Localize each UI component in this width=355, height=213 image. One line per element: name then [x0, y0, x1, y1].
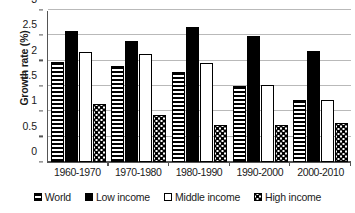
bar [65, 31, 78, 162]
legend-swatch-icon [164, 193, 172, 201]
x-axis-tick-labels: 1960-19701970-19801980-19901990-20002000… [47, 166, 351, 178]
y-axis-tick-labels: 00.511.522.53 [0, 11, 43, 163]
bar-groups [48, 11, 351, 162]
bar [125, 41, 138, 162]
bar [111, 66, 124, 162]
y-axis-tick-label: 1 [31, 94, 37, 106]
legend-label: High income [265, 191, 321, 203]
legend-label: World [45, 191, 71, 203]
y-axis-tick-label: 0.5 [22, 120, 37, 132]
legend-item[interactable]: High income [254, 191, 321, 203]
legend-swatch-icon [34, 193, 42, 201]
x-axis-tick-label: 1970-1980 [108, 166, 169, 178]
bar-group [230, 11, 291, 162]
bar-group [290, 11, 351, 162]
y-axis-tick-mark [39, 60, 43, 61]
y-axis-tick-mark [39, 161, 43, 162]
chart-legend: WorldLow incomeMiddle incomeHigh income [0, 191, 355, 203]
y-axis-tick-label: 3 [31, 0, 37, 5]
y-axis-tick-mark [39, 85, 43, 86]
legend-item[interactable]: World [34, 191, 71, 203]
bar [79, 52, 92, 162]
bar [233, 86, 246, 162]
plot-area [47, 11, 351, 163]
y-axis-tick-label: 2.5 [22, 18, 37, 30]
x-axis-tick-label: 2000-2010 [290, 166, 351, 178]
bar [214, 125, 227, 162]
bar [51, 62, 64, 162]
bar [186, 27, 199, 162]
x-axis-tick-label: 1990-2000 [229, 166, 290, 178]
bar [261, 85, 274, 162]
bar [335, 123, 348, 162]
y-axis-tick-label: 1.5 [22, 69, 37, 81]
bar [247, 36, 260, 162]
bar [200, 63, 213, 162]
y-axis-tick-mark [39, 9, 43, 10]
legend-swatch-icon [254, 193, 262, 201]
legend-label: Middle income [175, 191, 240, 203]
legend-label: Low income [96, 191, 150, 203]
bar-group [109, 11, 170, 162]
bar [139, 54, 152, 162]
x-axis-tick-label: 1960-1970 [47, 166, 108, 178]
legend-item[interactable]: Low income [85, 191, 150, 203]
y-axis-tick-mark [39, 35, 43, 36]
y-axis-tick-mark [39, 111, 43, 112]
x-axis-tick-label: 1980-1990 [169, 166, 230, 178]
bar [153, 115, 166, 162]
bar-chart: Growth rate (%) 00.511.522.53 1960-19701… [0, 0, 355, 213]
bar [321, 100, 334, 162]
legend-swatch-icon [85, 193, 93, 201]
y-axis-tick-label: 0 [31, 145, 37, 157]
gridline [48, 9, 351, 10]
legend-item[interactable]: Middle income [164, 191, 240, 203]
y-axis-tick-mark [39, 136, 43, 137]
bar-group [169, 11, 230, 162]
bar [275, 125, 288, 162]
bar [93, 104, 106, 162]
bar-group [48, 11, 109, 162]
y-axis-tick-label: 2 [31, 44, 37, 56]
bar [172, 72, 185, 162]
bar [307, 51, 320, 162]
bar [293, 100, 306, 162]
